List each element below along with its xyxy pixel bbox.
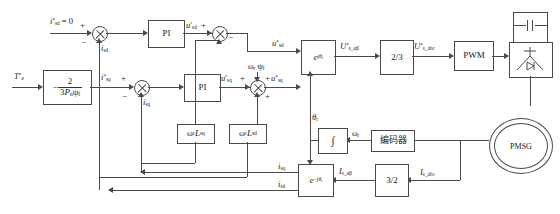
- torque-block-denominator: 3Pnψf: [58, 87, 82, 98]
- torque-block-fraction: 2 3Pnψf: [58, 77, 82, 98]
- wire-iabc: [407, 180, 460, 181]
- wire-dref: [50, 33, 88, 34]
- wire-d-out-1: [226, 33, 248, 34]
- igbt-diode-symbol: [509, 42, 551, 76]
- speed-label: ωr: [352, 129, 359, 139]
- torque-block-numerator: 2: [58, 77, 82, 86]
- wire-d-out-2: [247, 33, 248, 51]
- current-alphabeta-label: Is_αβ: [339, 167, 352, 177]
- wire-q-sum-to-pi: [148, 87, 180, 88]
- wire-cap-left: [513, 25, 526, 26]
- wire-alphabeta-volt: [334, 56, 376, 57]
- d-axis-output-label: u*sd: [272, 39, 284, 49]
- pi-controller-d[interactable]: PI: [148, 20, 185, 48]
- q-axis-feedback-label: isq: [143, 98, 150, 108]
- wire-isd-up: [99, 40, 100, 190]
- wire-wrlsq-up: [195, 40, 196, 124]
- wire-torque-ref: [12, 87, 39, 88]
- back-emf-label: ωr ψf: [248, 62, 265, 72]
- q-decouple-plus-bottom: +: [265, 92, 270, 101]
- two-three-transform-block: 2/3: [380, 40, 414, 75]
- wire-d-sum-to-pi: [106, 33, 144, 34]
- d-axis-feedback-label: isd: [101, 44, 108, 54]
- wire-isq-tap-to-wrlsq: [141, 163, 195, 164]
- arrow-isd-left: [108, 187, 113, 193]
- d-sum-plus-sign: +: [80, 21, 85, 30]
- wire-theta-out: [310, 140, 318, 141]
- torque-reference-label: T*e: [14, 72, 24, 82]
- wire-theta-down: [310, 140, 311, 162]
- wire-q-ref: [90, 87, 130, 88]
- inverse-park-block: ejθr: [301, 40, 336, 75]
- d-decouple-plus-sign: +: [201, 21, 206, 30]
- wire-q-out: [264, 87, 297, 88]
- q-axis-output-label: u*sq: [271, 74, 283, 84]
- feedback-isq-label: isq: [278, 162, 285, 172]
- arrow-wrlsd-in: [254, 92, 260, 97]
- wire-inverter-to-machine: [530, 76, 531, 106]
- wire-isq-up: [141, 94, 142, 172]
- pi-controller-q[interactable]: PI: [184, 74, 221, 102]
- q-axis-reference-label: i*sq: [101, 73, 111, 83]
- arrow-theta-to-inv-park: [307, 71, 313, 76]
- wire-isq-to-wrlsq: [195, 142, 196, 163]
- wire-abc-volt: [412, 56, 450, 57]
- theta-label: θr: [312, 113, 318, 123]
- integrator-block: ∫: [318, 128, 348, 154]
- wire-dc-top: [513, 12, 548, 13]
- feedback-isd-label: isd: [278, 180, 285, 190]
- d-sum-minus-sign: −: [81, 38, 86, 47]
- wire-dc-plus: [513, 12, 514, 42]
- wire-wrlsd-up: [257, 94, 258, 124]
- encoder-block: 编码器: [371, 130, 415, 152]
- q-axis-pi-output-label: u′sq: [221, 74, 232, 84]
- wire-current-tap: [460, 140, 461, 180]
- voltage-alphabeta-label: U*s_αβ: [340, 42, 359, 52]
- current-abc-label: Is_abc: [420, 168, 435, 178]
- pmsg-machine: PMSG: [494, 123, 548, 169]
- arrow-isd-into-sum: [96, 38, 102, 43]
- wire-theta-bus: [310, 73, 311, 140]
- three-two-transform-block: 3/2: [375, 164, 409, 197]
- arrow-emf-in: [254, 77, 260, 82]
- pwm-block[interactable]: PWM: [454, 41, 494, 71]
- wire-isd-feedback: [109, 190, 298, 191]
- q-decouple-plus-left: +: [240, 74, 245, 83]
- wire-d-out-3: [247, 51, 297, 52]
- capacitor-plate-right: [532, 20, 533, 31]
- torque-to-current-block: − 2 3Pnψf: [43, 70, 92, 105]
- d-axis-pi-output-label: u′sd: [186, 21, 197, 31]
- q-sum-plus-sign: +: [121, 74, 126, 83]
- wire-machine-to-encoder: [413, 140, 489, 141]
- voltage-abc-label: U*s_abc: [414, 42, 435, 52]
- control-block-diagram: i*sd = 0 + − isd PI u′sd + − u*sd T*e − …: [0, 0, 560, 214]
- park-transform-block: e−jθr: [298, 164, 334, 197]
- wire-dc-minus: [547, 12, 548, 42]
- arrow-isq-into-sum: [138, 92, 144, 97]
- decoupling-block-wrlsd: ωrLsd: [229, 124, 267, 144]
- d-decouple-minus-sign: −: [228, 33, 233, 42]
- q-sum-minus-sign: −: [122, 92, 127, 101]
- wire-ialphabeta: [332, 180, 375, 181]
- arrow-park-inv-in-q: [296, 84, 301, 90]
- decoupling-block-wrlsq: ωrLsq: [177, 124, 215, 144]
- q-decouple-plus-top: +: [265, 74, 270, 83]
- d-axis-reference-label: i*sd = 0: [50, 17, 73, 27]
- wire-cap-right: [535, 25, 548, 26]
- wire-isq-feedback: [141, 172, 298, 173]
- wire-wrlsq-stub: [219, 40, 220, 41]
- capacitor-plate-left: [527, 20, 528, 31]
- wire-isd-tap-to-wrlsd: [99, 177, 247, 178]
